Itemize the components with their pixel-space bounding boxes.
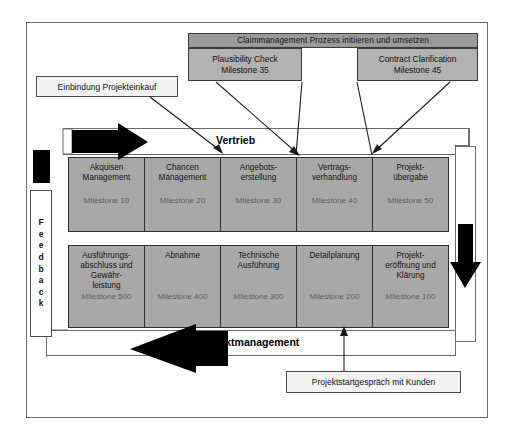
feedback-box[interactable]: F e e d b a c k <box>30 190 52 337</box>
process-cell-projekteroeffnung[interactable]: Projekt- eröffnung und Klärung Milestone… <box>373 246 448 327</box>
sales-band-label: Vertrieb <box>216 134 255 146</box>
process-title-line3: Klärung <box>396 271 424 280</box>
process-cell-abnahme[interactable]: Abnahme Milestone 400 <box>145 246 221 327</box>
process-title-line1: Ausführungs- <box>82 251 131 260</box>
process-title-line2: Ausführung <box>238 261 280 270</box>
process-title-line3: Gewähr- <box>91 271 122 280</box>
claim-header-label: Claimmanagement Prozess initiieren und u… <box>237 36 429 45</box>
project-process-row: Ausführungs- abschluss und Gewähr- leist… <box>68 245 449 328</box>
feedback-letter: e <box>39 240 44 252</box>
process-milestone: Milestone 20 <box>145 196 220 205</box>
project-band-label: Projektmanagement <box>199 336 299 348</box>
process-title-line2: Management <box>159 173 207 182</box>
diagram-canvas: Claimmanagement Prozess initiieren und u… <box>0 0 515 442</box>
contract-clarification-title: Contract Clarification <box>379 54 457 65</box>
process-title-line2: erstellung <box>241 173 277 182</box>
process-title-line2: übergabe <box>393 173 428 182</box>
process-milestone: Milestone 500 <box>69 292 144 301</box>
sales-right-rail <box>468 128 469 146</box>
process-milestone: Milestone 30 <box>221 196 296 205</box>
feedback-letter: k <box>39 298 44 310</box>
process-title-line1: Chancen <box>166 163 199 172</box>
process-title-line4: leistung <box>92 281 120 290</box>
process-cell-vertragsverhandlung[interactable]: Vertrags- verhandlung Milestone 40 <box>297 158 373 231</box>
feedback-letter: c <box>39 287 44 299</box>
contract-clarification-box[interactable]: Contract Clarification Milestone 45 <box>357 48 478 81</box>
process-milestone: Milestone 400 <box>145 292 220 301</box>
process-cell-projektuebergabe[interactable]: Projekt- übergabe Milestone 50 <box>373 158 448 231</box>
claim-header-bar: Claimmanagement Prozess initiieren und u… <box>188 33 478 48</box>
process-title-line1: Technische <box>238 251 279 260</box>
sales-band-rail <box>63 128 470 155</box>
process-milestone: Milestone 100 <box>373 292 448 301</box>
process-cell-akquisen[interactable]: Akquisen Management Milestone 10 <box>69 158 145 231</box>
process-title-line2: verhandlung <box>312 173 357 182</box>
feedback-letter: a <box>39 275 44 287</box>
process-cell-ausfuehrungsabschluss[interactable]: Ausführungs- abschluss und Gewähr- leist… <box>69 246 145 327</box>
feedback-letter: d <box>38 252 43 264</box>
purchasing-note-box[interactable]: Einbindung Projekteinkauf <box>36 76 178 97</box>
plausibility-check-title: Plausibility Check <box>212 54 278 65</box>
project-left-rail <box>46 343 47 357</box>
process-cell-angebotserstellung[interactable]: Angebots- erstellung Milestone 30 <box>221 158 297 231</box>
process-cell-detailplanung[interactable]: Detailplanung Milestone 200 <box>297 246 373 327</box>
process-milestone: Milestone 200 <box>297 292 372 301</box>
contract-clarification-milestone: Milestone 45 <box>394 65 442 76</box>
process-title-line1: Abnahme <box>165 251 200 260</box>
feedback-letter: b <box>38 264 43 276</box>
process-title-line1: Projekt- <box>396 251 424 260</box>
process-title-line1: Akquisen <box>90 163 124 172</box>
process-title-line1: Projekt- <box>396 163 424 172</box>
plausibility-check-milestone: Milestone 35 <box>221 65 269 76</box>
process-cell-technische-ausfuehrung[interactable]: Technische Ausführung Milestone 300 <box>221 246 297 327</box>
process-milestone: Milestone 50 <box>373 196 448 205</box>
plausibility-check-box[interactable]: Plausibility Check Milestone 35 <box>188 48 302 81</box>
process-cell-chancen[interactable]: Chancen Management Milestone 20 <box>145 158 221 231</box>
feedback-letter: F <box>38 217 43 229</box>
process-title-line1: Detailplanung <box>309 251 359 260</box>
process-title-line2: abschluss und <box>80 261 132 270</box>
process-milestone: Milestone 10 <box>69 196 144 205</box>
process-title-line2: eröffnung und <box>385 261 435 270</box>
process-title-line1: Angebots- <box>240 163 277 172</box>
kickoff-note-label: Projektstartgespräch mit Kunden <box>312 377 435 387</box>
kickoff-note-box[interactable]: Projektstartgespräch mit Kunden <box>286 371 461 393</box>
purchasing-note-label: Einbindung Projekteinkauf <box>58 82 157 92</box>
right-flow-bar <box>455 146 476 342</box>
sales-process-row: Akquisen Management Milestone 10 Chancen… <box>68 157 449 232</box>
feedback-arrow-head <box>33 150 50 183</box>
process-title-line1: Vertrags- <box>318 163 351 172</box>
process-milestone: Milestone 40 <box>297 196 372 205</box>
process-title-line2: Management <box>83 173 131 182</box>
process-milestone: Milestone 300 <box>221 292 296 301</box>
feedback-letter: e <box>39 229 44 241</box>
